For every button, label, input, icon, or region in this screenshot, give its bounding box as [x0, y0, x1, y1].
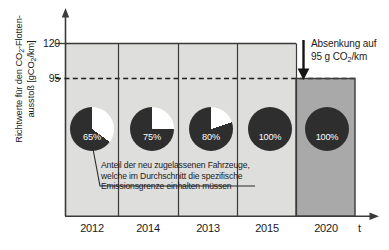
x-tick-label-2015: 2015 — [242, 222, 292, 234]
pie-chart-2020: 100% — [305, 107, 349, 151]
pie-chart-2014: 75% — [130, 107, 174, 151]
annotation-line-3: Emissionsgrenze einhalten müssen — [101, 181, 276, 192]
y-axis-arrowhead-icon — [62, 8, 69, 18]
callout-text-block: Absenkung auf 95 g CO2/km — [311, 38, 376, 64]
pie-label-2015: 100% — [248, 132, 292, 142]
pie-chart-2013: 80% — [189, 107, 233, 151]
x-tick-label-2012: 2012 — [67, 222, 117, 234]
callout-line-2-post: /km — [351, 51, 367, 62]
x-axis-arrowhead-icon — [370, 213, 380, 221]
annotation-text-block: Anteil der neu zugelassenen Fahrzeuge, w… — [101, 160, 276, 192]
pie-chart-2012: 65% — [70, 107, 114, 151]
pie-label-2020: 100% — [305, 132, 349, 142]
pie-label-2012: 65% — [70, 132, 114, 142]
x-tick-label-2013: 2013 — [183, 222, 233, 234]
callout-line-2-pre: 95 g CO — [311, 51, 348, 62]
x-tick-label-2014: 2014 — [123, 222, 173, 234]
x-axis-label: t — [358, 222, 361, 234]
co2-fleet-emission-chart: Richtwerte für den CO2-Flotten- ausstoß … — [0, 0, 389, 250]
pie-chart-2015: 100% — [248, 107, 292, 151]
callout-line-2: 95 g CO2/km — [311, 51, 376, 64]
callout-line-1: Absenkung auf — [311, 38, 376, 51]
pie-label-2013: 80% — [189, 132, 233, 142]
pie-label-2014: 75% — [130, 132, 174, 142]
x-tick-label-2020: 2020 — [301, 222, 351, 234]
annotation-line-2: welche im Durchschnitt die spezifische — [101, 171, 276, 182]
annotation-line-1: Anteil der neu zugelassenen Fahrzeuge, — [101, 160, 276, 171]
